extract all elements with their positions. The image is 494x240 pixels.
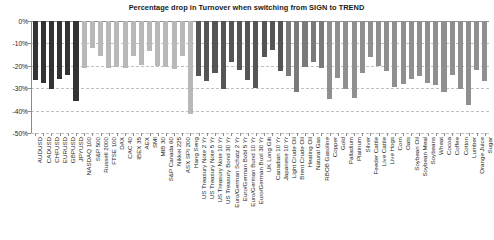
- bar: [360, 21, 365, 73]
- bar: [466, 21, 471, 105]
- x-tick-label: NASDAQ 100: [86, 137, 92, 175]
- bar: [65, 21, 70, 75]
- x-tick-mark: [43, 133, 44, 136]
- x-tick-mark: [362, 133, 363, 136]
- bar: [123, 21, 128, 68]
- x-tick-label: JPYUSD: [78, 137, 84, 161]
- bar: [237, 21, 242, 70]
- x-tick-mark: [182, 133, 183, 136]
- bar: [33, 21, 38, 80]
- x-tick-mark: [280, 133, 281, 136]
- x-tick-mark: [264, 133, 265, 136]
- bar: [302, 21, 307, 67]
- x-tick-mark: [92, 133, 93, 136]
- x-tick-label: US Treasury Note 10 Yr: [217, 137, 223, 203]
- bar: [278, 21, 283, 71]
- x-tick-mark: [256, 133, 257, 136]
- plot-area: [31, 21, 489, 133]
- x-tick-mark: [240, 133, 241, 136]
- y-axis-line: [31, 21, 32, 133]
- x-tick-mark: [419, 133, 420, 136]
- x-tick-label: Soybean Oil: [414, 137, 420, 171]
- x-tick-label: Canadian 10 Yr: [275, 137, 281, 180]
- chart-title: Percentage drop in Turnover when switchi…: [0, 3, 493, 12]
- x-tick-label: Feeder Cattle: [373, 137, 379, 175]
- x-tick-label: UK Long Gilt: [266, 137, 272, 172]
- y-tick-label: -10%: [0, 40, 28, 47]
- x-tick-mark: [68, 133, 69, 136]
- x-tick-label: US Treasury Note 2 Yr: [201, 137, 207, 199]
- y-tick-label: -20%: [0, 62, 28, 69]
- x-tick-mark: [60, 133, 61, 136]
- bar: [172, 21, 177, 69]
- x-tick-label: EURUSD: [62, 137, 68, 163]
- x-tick-mark: [460, 133, 461, 136]
- bar: [319, 21, 324, 68]
- x-tick-mark: [338, 133, 339, 136]
- x-tick-mark: [248, 133, 249, 136]
- x-tick-label: ASX SPI 200: [185, 137, 191, 173]
- x-tick-mark: [289, 133, 290, 136]
- x-tick-mark: [51, 133, 52, 136]
- x-tick-label: Euro/German Schatz 2 Yr: [234, 137, 240, 208]
- bar: [57, 21, 62, 79]
- bar: [245, 21, 250, 80]
- y-tick-label: -30%: [0, 85, 28, 92]
- bar: [221, 21, 226, 89]
- bar: [73, 21, 78, 101]
- bar: [212, 21, 217, 73]
- bar: [286, 21, 291, 76]
- bar: [163, 21, 168, 67]
- bar: [368, 21, 373, 57]
- x-tick-mark: [76, 133, 77, 136]
- x-tick-mark: [166, 133, 167, 136]
- bar: [196, 21, 201, 76]
- bar: [352, 21, 357, 98]
- x-tick-label: SMI: [152, 137, 158, 148]
- x-tick-label: Silver: [365, 137, 371, 152]
- x-tick-label: Oats: [405, 137, 411, 150]
- bar: [433, 21, 438, 85]
- x-tick-label: MIB 30: [160, 137, 166, 157]
- bar: [262, 21, 267, 57]
- bar: [482, 21, 487, 81]
- x-tick-mark: [330, 133, 331, 136]
- x-tick-label: Euro/German Buxl 30 Yr: [258, 137, 264, 204]
- bar: [458, 21, 463, 89]
- x-tick-mark: [379, 133, 380, 136]
- y-tick-label: 0%: [0, 18, 28, 25]
- x-tick-mark: [150, 133, 151, 136]
- bar: [417, 21, 422, 76]
- x-tick-label: Brent Crude Oil: [299, 137, 305, 180]
- x-tick-label: AUDUSD: [37, 137, 43, 163]
- x-tick-mark: [133, 133, 134, 136]
- bar: [401, 21, 406, 84]
- bar: [441, 21, 446, 92]
- x-tick-mark: [109, 133, 110, 136]
- x-tick-mark: [101, 133, 102, 136]
- x-tick-mark: [35, 133, 36, 136]
- x-tick-mark: [199, 133, 200, 136]
- x-tick-label: Palladium: [348, 137, 354, 164]
- x-tick-label: Coffee: [454, 137, 460, 155]
- x-tick-label: Corn: [397, 137, 403, 150]
- x-tick-mark: [125, 133, 126, 136]
- x-tick-mark: [477, 133, 478, 136]
- x-tick-label: Soybeans: [430, 137, 436, 165]
- x-tick-label: CAC 40: [127, 137, 133, 159]
- bar: [82, 21, 87, 68]
- x-tick-label: S&P Canada 60: [168, 137, 174, 181]
- x-tick-label: US Treasury Note 5 Yr: [209, 137, 215, 199]
- x-tick-label: DAX: [119, 137, 125, 150]
- bar: [253, 21, 258, 88]
- bar: [327, 21, 332, 99]
- x-tick-label: FTSE 100: [111, 137, 117, 165]
- x-tick-label: AEX: [144, 137, 150, 149]
- x-tick-label: Euro/German Bund 10 Yr: [250, 137, 256, 207]
- bar: [106, 21, 111, 68]
- bar: [114, 21, 119, 67]
- x-tick-mark: [469, 133, 470, 136]
- x-tick-label: Russell 2000: [103, 137, 109, 173]
- x-tick-label: Copper: [332, 137, 338, 157]
